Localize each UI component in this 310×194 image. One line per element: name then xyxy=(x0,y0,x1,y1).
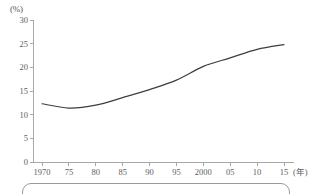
chart-figure: (%) 051015202530 19707580859095200005101… xyxy=(0,0,310,194)
y-axis-tick-label: 25 xyxy=(6,39,28,48)
y-axis-tick-label: 10 xyxy=(6,110,28,119)
x-axis-tick-label: 2000 xyxy=(195,168,212,177)
caption-box xyxy=(22,183,290,194)
y-axis-ticks xyxy=(30,20,34,162)
y-axis-tick-label: 15 xyxy=(6,87,28,96)
x-axis-ticks xyxy=(42,162,284,166)
x-axis-unit-label: (年) xyxy=(293,168,308,177)
x-axis-tick-label: 90 xyxy=(145,168,154,177)
y-axis-tick-label: 0 xyxy=(6,158,28,167)
axis-lines xyxy=(33,20,294,162)
x-axis-tick-label: 1970 xyxy=(34,168,51,177)
y-axis-tick-label: 5 xyxy=(6,134,28,143)
x-axis-tick-label: 80 xyxy=(92,168,101,177)
y-axis-tick-label: 30 xyxy=(6,16,28,25)
x-axis-tick-label: 15 xyxy=(280,168,289,177)
x-axis-tick-label: 75 xyxy=(65,168,74,177)
y-axis-tick-label: 20 xyxy=(6,63,28,72)
x-axis-tick-label: 10 xyxy=(253,168,262,177)
x-axis-tick-label: 05 xyxy=(226,168,235,177)
line-chart-plot xyxy=(0,0,310,194)
data-series-layer xyxy=(42,45,284,108)
x-axis-tick-label: 85 xyxy=(118,168,127,177)
x-axis-tick-label: 95 xyxy=(172,168,181,177)
